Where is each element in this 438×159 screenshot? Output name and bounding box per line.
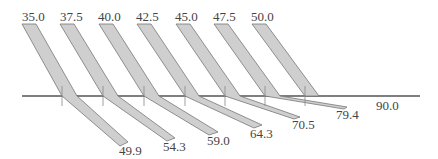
refracted-angle-label: 70.5: [292, 118, 315, 131]
incident-angle-label: 35.0: [22, 10, 45, 23]
incident-angle-label: 42.5: [136, 10, 159, 23]
refracted-angle-label: 59.0: [207, 134, 230, 147]
beam-50: [252, 24, 319, 106]
incident-angle-label: 50.0: [251, 10, 274, 23]
refracted-angle-label: 64.3: [250, 127, 273, 140]
refracted-angle-label: 54.3: [163, 140, 186, 153]
refracted-angle-label: 49.9: [119, 144, 142, 157]
grazing-angle-label: 90.0: [376, 99, 399, 112]
incident-angle-label: 37.5: [60, 10, 83, 23]
refracted-angle-label: 79.4: [336, 108, 359, 121]
incident-angle-label: 40.0: [98, 10, 121, 23]
incident-angle-label: 45.0: [175, 10, 198, 23]
incident-angle-label: 47.5: [213, 10, 236, 23]
